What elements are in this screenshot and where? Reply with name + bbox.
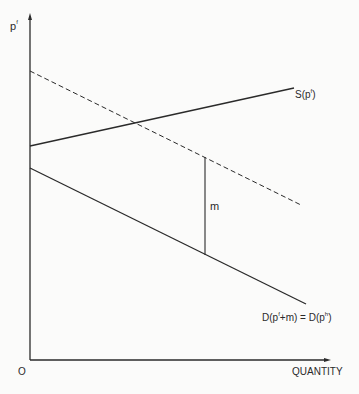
supply-label-text: S(p	[295, 89, 311, 100]
supply-label: S(pf)	[295, 89, 316, 100]
y-axis-label: pf	[10, 20, 18, 32]
x-axis-label: QUANTITY	[292, 366, 343, 377]
demand-label-close: )	[328, 312, 331, 323]
origin-label-text: O	[18, 366, 26, 377]
demand-label-sup-b: h	[325, 311, 328, 317]
wedge-m-text: m	[210, 200, 219, 212]
x-axis-label-text: QUANTITY	[292, 366, 343, 377]
supply-label-sup: f	[311, 88, 313, 94]
diagram-canvas	[0, 0, 359, 394]
supply-curve	[30, 88, 294, 146]
demand-label-sup-a: f	[278, 311, 280, 317]
demand-label-mid: +m) = D(p	[280, 312, 325, 323]
demand-label-a: D(p	[262, 312, 278, 323]
x-axis-arrow-icon	[324, 358, 331, 362]
y-axis-label-sup: f	[16, 19, 18, 25]
origin-label: O	[18, 366, 26, 377]
y-axis-arrow-icon	[28, 13, 32, 20]
shifted-demand-curve	[30, 71, 301, 205]
wedge-m-label: m	[210, 200, 219, 212]
demand-label: D(pf+m) = D(ph)	[262, 312, 332, 323]
supply-label-close: )	[312, 89, 315, 100]
diagram: pf S(pf) m D(pf+m) = D(ph) QUANTITY O	[0, 0, 359, 394]
demand-curve	[30, 168, 306, 304]
